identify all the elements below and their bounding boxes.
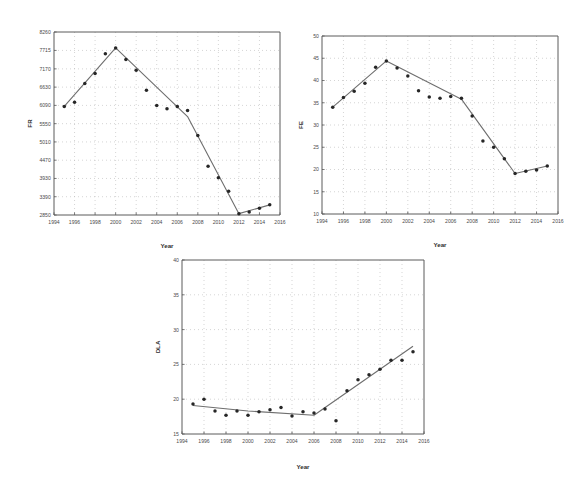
data-point [134, 68, 138, 72]
data-point [257, 410, 261, 414]
data-point [334, 419, 338, 423]
data-point [503, 157, 507, 161]
data-point [124, 58, 128, 62]
data-point [331, 105, 335, 109]
y-tick-label: 3390 [39, 194, 50, 200]
x-tick-label: 2016 [274, 219, 285, 225]
x-tick-label: 1996 [69, 219, 80, 225]
data-point [186, 109, 190, 113]
x-tick-label: 2016 [418, 438, 429, 444]
data-point [546, 164, 550, 168]
y-axis-title: DLA [154, 340, 161, 353]
y-tick-label: 45 [313, 55, 319, 61]
y-tick-label: 40 [173, 257, 179, 263]
tick-group: 2850339039304470501055506090663071707715… [39, 29, 285, 225]
data-point [145, 88, 149, 92]
x-tick-label: 1998 [220, 438, 231, 444]
x-tick-label: 1994 [176, 438, 187, 444]
y-tick-label: 5010 [39, 139, 50, 145]
y-axis-title: FE [297, 121, 304, 129]
data-point [268, 203, 272, 207]
data-point [411, 350, 415, 354]
x-tick-label: 2006 [172, 219, 183, 225]
x-tick-label: 2000 [110, 219, 121, 225]
x-tick-label: 2012 [509, 218, 520, 224]
y-tick-label: 35 [173, 292, 179, 298]
chart-dla-canvas: 1520253035401994199619982000200220042006… [148, 254, 434, 478]
data-point [417, 89, 421, 93]
data-point [191, 402, 195, 406]
data-point [83, 82, 87, 86]
data-point [400, 358, 404, 362]
y-tick-label: 40 [313, 77, 319, 83]
y-tick-label: 6090 [39, 102, 50, 108]
data-point [470, 114, 474, 118]
data-point [301, 410, 305, 414]
y-tick-label: 25 [313, 144, 319, 150]
y-axis-title: FR [26, 119, 33, 128]
series-group [191, 346, 415, 422]
x-tick-label: 2004 [151, 219, 162, 225]
grid-group [322, 36, 558, 214]
series-group [331, 59, 549, 175]
y-tick-label: 7170 [39, 66, 50, 72]
tick-group: 1520253035401994199619982000200220042006… [173, 257, 430, 444]
x-tick-label: 2002 [131, 219, 142, 225]
x-tick-label: 2008 [192, 219, 203, 225]
data-point [279, 406, 283, 410]
x-tick-label: 2006 [308, 438, 319, 444]
data-point [237, 212, 241, 216]
data-point [227, 190, 231, 194]
y-tick-label: 30 [313, 122, 319, 128]
data-point [217, 176, 221, 180]
y-tick-label: 5550 [39, 121, 50, 127]
x-tick-label: 2016 [552, 218, 563, 224]
data-point [323, 407, 327, 411]
y-tick-label: 4470 [39, 157, 50, 163]
x-tick-label: 2010 [352, 438, 363, 444]
x-tick-label: 1996 [338, 218, 349, 224]
y-tick-label: 20 [173, 396, 179, 402]
x-tick-label: 2012 [374, 438, 385, 444]
data-point [213, 409, 217, 413]
y-tick-label: 30 [173, 327, 179, 333]
data-point [312, 411, 316, 415]
x-tick-label: 2010 [488, 218, 499, 224]
data-point [374, 65, 378, 69]
x-tick-label: 2008 [330, 438, 341, 444]
x-tick-label: 1998 [89, 219, 100, 225]
data-point [356, 378, 360, 382]
data-point [481, 139, 485, 143]
data-point [206, 165, 210, 169]
chart-fr-canvas: 2850339039304470501055506090663071707715… [14, 22, 286, 257]
data-point [63, 105, 67, 109]
x-tick-label: 2008 [467, 218, 478, 224]
x-tick-label: 2004 [286, 438, 297, 444]
x-axis-title: Year [296, 463, 310, 470]
data-point [290, 414, 294, 418]
data-point [438, 97, 442, 101]
y-tick-label: 25 [173, 361, 179, 367]
y-tick-label: 6630 [39, 84, 50, 90]
y-tick-label: 7715 [39, 47, 50, 53]
grid-group [54, 32, 280, 215]
data-point [345, 389, 349, 393]
data-point [513, 172, 517, 176]
data-point [73, 101, 77, 105]
data-point [406, 74, 410, 78]
x-tick-label: 2014 [396, 438, 407, 444]
data-point [378, 368, 382, 372]
x-tick-label: 1996 [198, 438, 209, 444]
data-point [176, 105, 180, 109]
chart-dla: 1520253035401994199619982000200220042006… [148, 254, 434, 478]
x-tick-label: 2000 [242, 438, 253, 444]
x-tick-label: 2006 [445, 218, 456, 224]
y-tick-label: 10 [313, 211, 319, 217]
data-point [352, 89, 356, 93]
chart-fe: 1015202530354045501994199619982000200220… [296, 28, 564, 256]
y-tick-label: 20 [313, 166, 319, 172]
data-point [492, 146, 496, 150]
data-point [224, 413, 228, 417]
x-tick-label: 2002 [264, 438, 275, 444]
x-tick-label: 2012 [233, 219, 244, 225]
